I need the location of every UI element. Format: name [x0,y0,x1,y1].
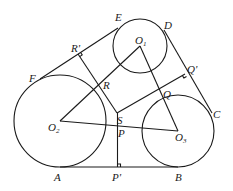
label-f: F [28,72,36,84]
label-e: E [114,11,122,23]
label-p: P [117,127,125,139]
label-d: D [163,19,172,31]
label-o1: O1 [135,34,146,48]
geometry-diagram: E D O1 R' Q' F R Q S C O2 P O3 A P' B [0,0,233,191]
right-angle-q-prime [182,76,186,79]
label-o3: O3 [175,131,187,145]
label-q: Q [163,88,171,100]
label-s: S [117,114,123,126]
label-o2: O2 [48,121,60,135]
label-r-prime: R' [70,42,81,54]
label-a: A [53,171,61,183]
label-q-prime: Q' [187,63,198,75]
label-r: R [102,79,110,91]
segment-s-r-prime [78,54,117,113]
segment-o2-o1 [60,46,140,121]
label-c: C [213,108,221,120]
label-b: B [175,171,182,183]
label-p-prime: P' [111,171,122,183]
